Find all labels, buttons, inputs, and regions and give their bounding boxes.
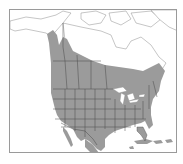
north-america-map bbox=[10, 10, 177, 153]
range-map bbox=[9, 9, 177, 153]
florida bbox=[137, 127, 147, 141]
